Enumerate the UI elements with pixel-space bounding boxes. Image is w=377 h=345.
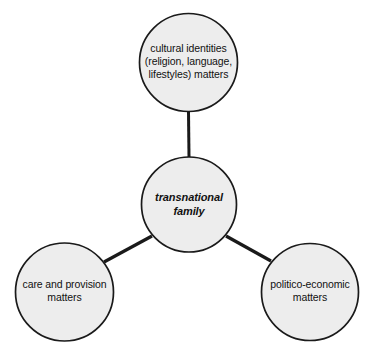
diagram-svg bbox=[0, 0, 377, 345]
connector-bottom-left bbox=[104, 236, 152, 262]
diagram-canvas: cultural identities (religion, language,… bbox=[0, 0, 377, 345]
connector-bottom-right bbox=[226, 236, 271, 261]
node-care-and-provision[interactable] bbox=[16, 243, 114, 341]
node-transnational-family[interactable] bbox=[142, 157, 237, 252]
connector-top bbox=[189, 112, 190, 157]
node-politico-economic[interactable] bbox=[262, 244, 359, 341]
node-cultural-identities[interactable] bbox=[140, 14, 238, 112]
